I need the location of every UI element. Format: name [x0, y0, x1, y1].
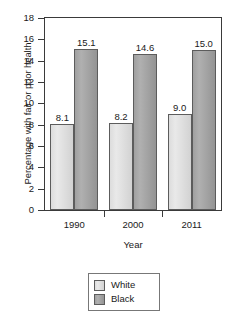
- bar-value-label: 15.1: [77, 37, 96, 48]
- x-axis-tick-label-1990: 1990: [64, 219, 85, 230]
- y-axis-tick-label: 16: [23, 33, 34, 44]
- y-axis-tick-label: 18: [23, 12, 34, 23]
- bar-value-label: 15.0: [194, 38, 213, 49]
- y-axis-tick-label: 10: [23, 97, 34, 108]
- chart-legend: WhiteBlack: [88, 273, 160, 311]
- y-axis-tick-label: 4: [29, 161, 34, 172]
- bar-black-2011: 15.0: [192, 50, 216, 210]
- y-axis-tick-label: 6: [29, 140, 34, 151]
- bar-value-label: 8.1: [56, 112, 69, 123]
- y-axis-tick-mark: [38, 167, 44, 168]
- x-axis-tick-mark: [104, 211, 105, 217]
- legend-label-white: White: [111, 280, 135, 290]
- legend-item-white: White: [94, 278, 153, 292]
- y-axis-tick-mark: [38, 189, 44, 190]
- x-axis-tick-label-2000: 2000: [122, 219, 143, 230]
- legend-item-black: Black: [94, 292, 153, 306]
- y-axis-tick-label: 14: [23, 55, 34, 66]
- x-axis-tick-label-2011: 2011: [181, 219, 201, 230]
- legend-label-black: Black: [111, 294, 134, 304]
- bars-layer: 8.115.18.214.69.015.0: [45, 18, 221, 210]
- y-axis-tick-mark: [38, 18, 44, 19]
- y-axis-tick-mark: [38, 146, 44, 147]
- y-axis-tick-mark: [38, 125, 44, 126]
- y-axis-tick-label: 0: [29, 204, 34, 215]
- legend-swatch-white: [94, 280, 105, 291]
- y-axis-tick-mark: [38, 210, 44, 211]
- bar-black-1990: 15.1: [74, 49, 98, 210]
- y-axis-title: Percentage with fair or poor health: [22, 19, 33, 209]
- y-axis-tick-mark: [38, 103, 44, 104]
- bar-value-label: 8.2: [114, 111, 127, 122]
- y-axis-tick-label: 2: [29, 183, 34, 194]
- bar-value-label: 9.0: [173, 102, 186, 113]
- y-axis-tick-mark: [38, 82, 44, 83]
- legend-swatch-black: [94, 294, 105, 305]
- bar-value-label: 14.6: [136, 42, 155, 53]
- y-axis-tick-label: 12: [23, 76, 34, 87]
- y-axis-tick-label: 8: [29, 119, 34, 130]
- bar-white-2011: 9.0: [168, 114, 192, 210]
- y-axis-tick-mark: [38, 39, 44, 40]
- bar-white-1990: 8.1: [50, 124, 74, 210]
- y-axis-tick-mark: [38, 61, 44, 62]
- x-axis-tick-mark: [162, 211, 163, 217]
- bar-chart: Percentage with fair or poor health 0246…: [0, 0, 246, 315]
- x-axis-title: Year: [44, 239, 222, 250]
- bar-black-2000: 14.6: [133, 54, 157, 210]
- bar-white-2000: 8.2: [109, 123, 133, 210]
